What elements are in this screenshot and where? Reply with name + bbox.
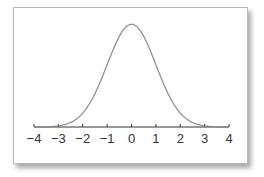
x-axis-tick-labels: −4−3−2−101234: [27, 131, 233, 146]
x-tick-label: 3: [201, 131, 208, 146]
x-tick-label: −2: [75, 131, 90, 146]
x-tick-label: −1: [100, 131, 115, 146]
x-tick-label: 2: [177, 131, 184, 146]
x-tick-label: 4: [225, 131, 232, 146]
x-tick-label: 1: [152, 131, 159, 146]
normal-curve-chart: −4−3−2−101234: [0, 0, 264, 177]
x-tick-label: −3: [51, 131, 66, 146]
x-tick-label: 0: [128, 131, 135, 146]
x-tick-label: −4: [27, 131, 42, 146]
normal-distribution-curve: [34, 24, 229, 127]
